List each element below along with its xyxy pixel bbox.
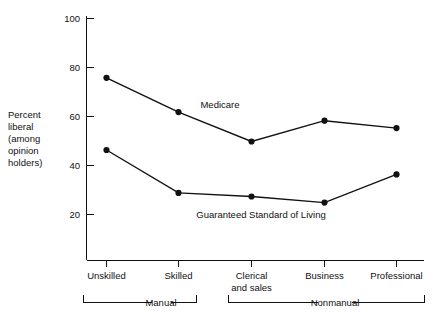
y-axis-title-line-1: Percent xyxy=(8,109,41,120)
medicare-point-skilled xyxy=(175,109,181,115)
y-tick-label-20: 20 xyxy=(69,209,80,220)
x-tick-label-clerical-line-2: and sales xyxy=(231,282,272,293)
medicare-series-label: Medicare xyxy=(200,99,239,110)
y-axis-title-line-2: liberal xyxy=(8,121,33,132)
series-guaranteed-standard-of-living: Guaranteed Standard of Living xyxy=(103,147,399,220)
group-bracket-manual: Manual xyxy=(84,295,197,309)
nonmanual-bracket-right xyxy=(352,295,425,303)
gsl-point-business xyxy=(321,200,327,206)
nonmanual-bracket-left xyxy=(229,295,319,303)
medicare-point-business xyxy=(321,118,327,124)
y-tick-label-100: 100 xyxy=(64,13,80,24)
medicare-point-clerical xyxy=(248,138,254,144)
medicare-point-unskilled xyxy=(103,75,109,81)
x-tick-label-skilled: Skilled xyxy=(165,270,193,281)
gsl-point-unskilled xyxy=(103,147,109,153)
y-axis-title-line-5: holders) xyxy=(8,157,42,168)
line-chart: 100 80 60 40 20 Percent liberal (among o… xyxy=(0,0,434,317)
y-axis-title-line-4: opinion xyxy=(8,145,39,156)
group-label-nonmanual: Nonmanual xyxy=(311,297,360,308)
x-tick-label-clerical-line-1: Clerical xyxy=(236,270,268,281)
y-axis-title: Percent liberal (among opinion holders) xyxy=(8,109,42,168)
group-label-manual: Manual xyxy=(145,297,176,308)
group-bracket-nonmanual: Nonmanual xyxy=(229,295,425,309)
y-axis: 100 80 60 40 20 xyxy=(64,13,94,260)
medicare-line xyxy=(107,78,397,142)
x-tick-label-business: Business xyxy=(305,270,344,281)
x-tick-label-unskilled: Unskilled xyxy=(87,270,126,281)
x-axis: Unskilled Skilled Clerical and sales Bus… xyxy=(87,261,425,294)
gsl-series-label: Guaranteed Standard of Living xyxy=(196,209,325,220)
gsl-point-clerical xyxy=(248,193,254,199)
x-tick-label-professional: Professional xyxy=(370,270,422,281)
y-tick-label-60: 60 xyxy=(69,111,80,122)
y-tick-label-80: 80 xyxy=(69,62,80,73)
manual-bracket-left xyxy=(84,295,153,303)
gsl-point-skilled xyxy=(175,190,181,196)
y-tick-label-40: 40 xyxy=(69,160,80,171)
y-axis-title-line-3: (among xyxy=(8,133,40,144)
gsl-point-professional xyxy=(393,171,399,177)
chart-figure: 100 80 60 40 20 Percent liberal (among o… xyxy=(0,0,434,317)
series-medicare: Medicare xyxy=(103,75,399,145)
medicare-point-professional xyxy=(393,125,399,131)
